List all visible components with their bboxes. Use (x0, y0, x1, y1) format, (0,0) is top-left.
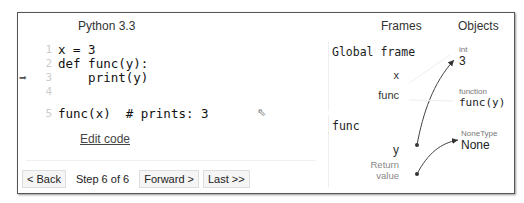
line-number: 3 (38, 71, 52, 85)
last-button[interactable]: Last >> (203, 170, 250, 188)
step-slider[interactable] (26, 160, 316, 161)
back-button[interactable]: < Back (22, 170, 66, 188)
line-text: x = 3 (58, 43, 96, 57)
line-number: 4 (38, 85, 52, 99)
language-label: Python 3.3 (78, 19, 135, 33)
mouse-cursor-icon: ⇖ (257, 106, 266, 119)
line-text: def func(y): (58, 57, 148, 71)
pointer-arrows (323, 13, 513, 193)
arrow-y-to-int (417, 60, 454, 145)
line-number: 1 (38, 43, 52, 57)
edit-code-link[interactable]: Edit code (80, 132, 130, 146)
step-counter: Step 6 of 6 (70, 173, 135, 185)
current-line-arrow-icon: ➡ (19, 71, 27, 85)
line-text: print(y) (58, 71, 148, 85)
arrow-return-to-none (417, 140, 458, 174)
faded-arrow-func (409, 100, 453, 101)
navigation-bar: < Back Step 6 of 6 Forward > Last >> (22, 170, 250, 188)
visualizer-panel: Python 3.3 1x = 3 2def func(y): ➡3 print… (17, 12, 515, 194)
line-text: func(x) # prints: 3 (58, 107, 209, 121)
line-number: 2 (38, 57, 52, 71)
forward-button[interactable]: Forward > (139, 170, 199, 188)
faded-arrow-x (409, 55, 450, 83)
frames-objects-visualization: Frames Objects Global frame x func func … (323, 13, 513, 193)
line-number: 5 (38, 107, 52, 121)
